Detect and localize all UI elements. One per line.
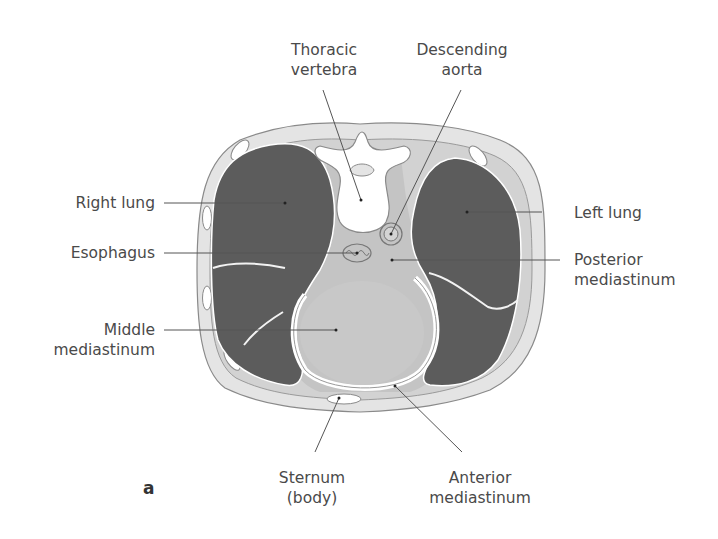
- label-middle-mediastinum: Middle mediastinum: [20, 320, 155, 360]
- label-line: Anterior: [420, 468, 540, 488]
- label-left-lung: Left lung: [574, 203, 642, 223]
- panel-letter: a: [143, 478, 154, 498]
- label-thoracic-vertebra: Thoracic vertebra: [274, 40, 374, 80]
- label-posterior-mediastinum: Posterior mediastinum: [574, 250, 675, 290]
- label-line: Descending: [406, 40, 518, 60]
- label-line: Posterior: [574, 250, 675, 270]
- label-descending-aorta: Descending aorta: [406, 40, 518, 80]
- label-esophagus: Esophagus: [30, 243, 155, 263]
- label-line: Sternum: [262, 468, 362, 488]
- heart-middle-mediastinum[interactable]: [300, 281, 424, 385]
- label-line: aorta: [406, 60, 518, 80]
- sternum[interactable]: [327, 394, 361, 404]
- label-line: Middle: [20, 320, 155, 340]
- label-line: mediastinum: [20, 340, 155, 360]
- label-line: mediastinum: [420, 488, 540, 508]
- label-sternum: Sternum (body): [262, 468, 362, 508]
- label-anterior-mediastinum: Anterior mediastinum: [420, 468, 540, 508]
- label-right-lung: Right lung: [30, 193, 155, 213]
- label-line: Thoracic: [274, 40, 374, 60]
- label-line: (body): [262, 488, 362, 508]
- label-line: vertebra: [274, 60, 374, 80]
- label-line: mediastinum: [574, 270, 675, 290]
